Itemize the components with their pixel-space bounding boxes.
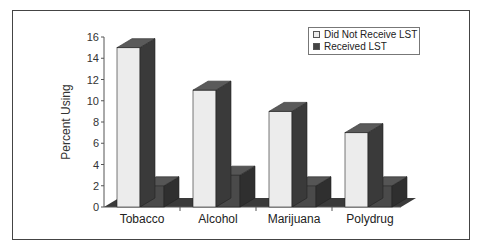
legend-item-did-not-receive: Did Not Receive LST: [309, 28, 419, 40]
svg-text:16: 16: [87, 31, 99, 43]
svg-text:4: 4: [93, 159, 99, 171]
svg-text:0: 0: [93, 201, 99, 213]
legend-label: Did Not Receive LST: [324, 29, 417, 40]
svg-text:8: 8: [93, 116, 99, 128]
svg-text:Polydrug: Polydrug: [346, 212, 393, 226]
svg-text:14: 14: [87, 52, 99, 64]
legend-label: Received LST: [324, 41, 387, 52]
legend: Did Not Receive LST Received LST: [308, 27, 420, 55]
svg-text:Percent Using: Percent Using: [59, 84, 73, 159]
legend-item-received: Received LST: [309, 40, 419, 52]
svg-text:Marijuana: Marijuana: [268, 212, 321, 226]
svg-text:10: 10: [87, 95, 99, 107]
svg-text:2: 2: [93, 180, 99, 192]
legend-swatch-dark: [313, 43, 320, 50]
legend-swatch-light: [313, 31, 320, 38]
svg-text:Alcohol: Alcohol: [198, 212, 237, 226]
svg-text:6: 6: [93, 137, 99, 149]
svg-text:12: 12: [87, 74, 99, 86]
svg-text:Tobacco: Tobacco: [120, 212, 165, 226]
